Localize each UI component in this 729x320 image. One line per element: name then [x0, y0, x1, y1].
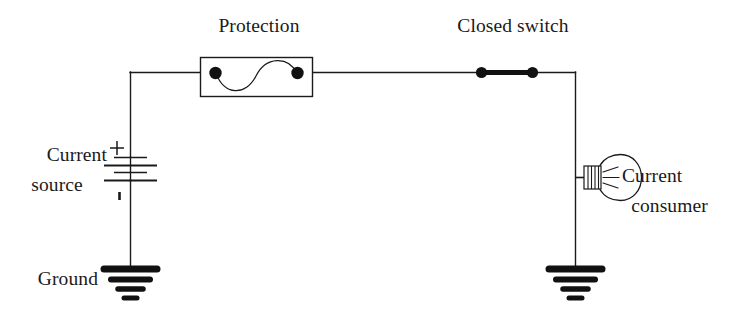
label-current-source-line1: Current [47, 144, 107, 165]
component-ground-left[interactable] [104, 269, 157, 298]
label-closed-switch: Closed switch [438, 13, 588, 38]
label-current-source-line2: source [9, 170, 107, 200]
component-protection-fuse[interactable] [201, 58, 313, 97]
component-ground-right[interactable] [549, 269, 602, 298]
component-closed-switch[interactable] [476, 67, 538, 78]
label-current-consumer-line2: consumer [613, 191, 726, 221]
label-ground: Ground [6, 266, 98, 291]
label-current-consumer: Current consumer [622, 161, 726, 221]
label-current-source: Current source [9, 140, 107, 200]
fuse-terminal-dot-right [291, 67, 303, 79]
label-current-consumer-line1: Current [622, 165, 682, 186]
circuit-schematic-drawing [0, 0, 729, 320]
circuit-diagram-canvas: Basic electrical circuit schematic [0, 0, 729, 320]
switch-terminal-dot-left [476, 67, 487, 78]
battery-polarity-marks [110, 141, 124, 200]
label-protection: Protection [199, 13, 319, 38]
switch-terminal-dot-right [527, 67, 538, 78]
fuse-terminal-dot-left [209, 67, 221, 79]
wire-group [130, 72, 576, 267]
